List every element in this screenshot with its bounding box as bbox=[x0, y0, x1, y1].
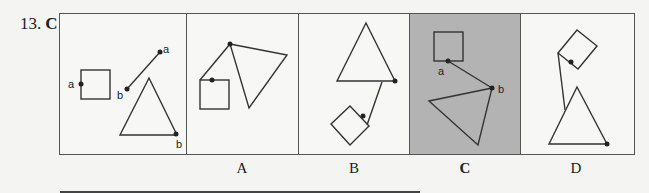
question-number: 13.C bbox=[20, 14, 58, 34]
option-d-figure bbox=[521, 14, 634, 156]
option-panel-a[interactable] bbox=[187, 14, 299, 154]
svg-text:a: a bbox=[163, 43, 170, 55]
section-divider bbox=[60, 191, 420, 193]
answer-letter: C bbox=[45, 14, 57, 33]
svg-text:b: b bbox=[117, 89, 123, 101]
svg-text:a: a bbox=[438, 65, 445, 77]
option-panel-b[interactable] bbox=[299, 14, 410, 154]
option-c-figure: a b bbox=[410, 14, 521, 156]
option-panel-c[interactable]: a b bbox=[410, 14, 521, 154]
option-label-b: B bbox=[298, 160, 410, 177]
question-number-label: 13. bbox=[20, 14, 41, 33]
option-label-c: C bbox=[409, 160, 521, 177]
puzzle-figure: a a b b bbox=[59, 13, 635, 155]
stem-panel: a a b b bbox=[60, 14, 187, 154]
svg-text:b: b bbox=[176, 138, 182, 150]
option-a-figure bbox=[187, 14, 299, 156]
option-b-figure bbox=[299, 14, 410, 156]
option-label-a: A bbox=[186, 160, 298, 177]
option-label-d: D bbox=[520, 160, 632, 177]
option-panel-d[interactable] bbox=[521, 14, 634, 154]
svg-text:a: a bbox=[68, 78, 75, 90]
stem-figure: a a b b bbox=[60, 14, 187, 156]
svg-text:b: b bbox=[498, 83, 504, 95]
